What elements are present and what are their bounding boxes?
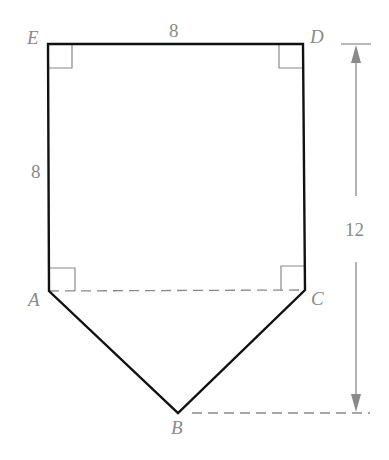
- dimension-label-height: 12: [345, 219, 364, 240]
- right-angle-marker-c: [281, 266, 305, 290]
- right-angle-marker-e: [48, 44, 72, 68]
- vertex-label-d: D: [309, 26, 324, 47]
- arrow-up-icon: [351, 45, 361, 63]
- pentagon-diagram: E D A C B 8 8 12: [0, 0, 389, 460]
- right-angle-marker-d: [279, 44, 303, 68]
- dimension-label-top: 8: [169, 20, 179, 41]
- dimension-label-left: 8: [31, 161, 41, 182]
- vertex-label-b: B: [171, 417, 183, 438]
- pentagon-outline: [48, 44, 305, 413]
- arrow-down-icon: [351, 394, 361, 412]
- vertex-label-e: E: [26, 27, 39, 48]
- vertex-label-c: C: [311, 288, 324, 309]
- dashed-line-ac: [49, 290, 305, 291]
- right-angle-marker-a: [49, 268, 75, 291]
- vertex-label-a: A: [26, 289, 40, 310]
